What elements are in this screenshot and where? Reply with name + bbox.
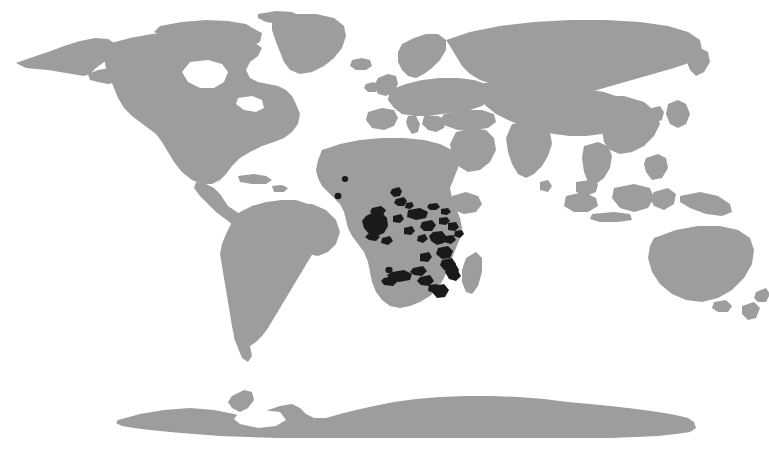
world-map-canvas — [0, 0, 769, 453]
range-patch-mali — [342, 176, 348, 182]
world-distribution-map — [0, 0, 769, 453]
range-patch-angola-dot — [385, 267, 392, 273]
range-patch-burkina — [335, 193, 342, 199]
